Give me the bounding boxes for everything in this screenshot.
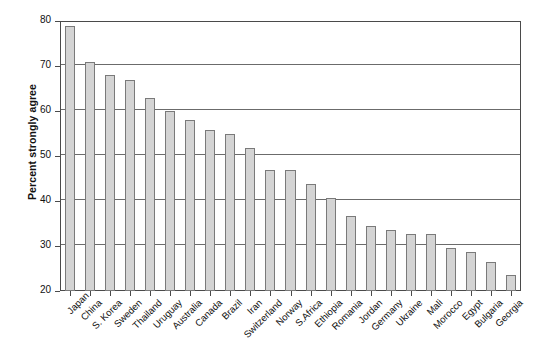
bar — [65, 26, 75, 292]
bar — [466, 252, 476, 291]
x-tick-mark — [291, 291, 292, 296]
x-tick-mark — [351, 291, 352, 296]
bar — [85, 62, 95, 292]
bar — [506, 275, 516, 291]
x-tick-mark — [270, 291, 271, 296]
y-axis-ticks: 20304050607080 — [0, 21, 60, 291]
y-tick-label: 30 — [40, 239, 51, 250]
bar — [105, 75, 115, 291]
bar — [306, 184, 316, 291]
y-tick-label: 20 — [40, 284, 51, 295]
x-tick-mark — [90, 291, 91, 296]
x-tick-mark — [431, 291, 432, 296]
bar — [346, 216, 356, 291]
bar — [285, 170, 295, 291]
x-tick-mark — [210, 291, 211, 296]
x-tick-mark — [150, 291, 151, 296]
bar — [205, 130, 215, 291]
bar-chart: Percent strongly agree 20304050607080 Ja… — [0, 0, 537, 355]
bar — [486, 262, 496, 291]
bar — [426, 234, 436, 291]
x-tick-mark — [331, 291, 332, 296]
y-tick-label: 80 — [40, 14, 51, 25]
x-tick-mark — [411, 291, 412, 296]
x-tick-mark — [511, 291, 512, 296]
bar — [225, 134, 235, 292]
y-tick-label: 50 — [40, 149, 51, 160]
bar — [366, 226, 376, 291]
x-tick-mark — [230, 291, 231, 296]
bar — [145, 98, 155, 291]
y-tick-label: 60 — [40, 104, 51, 115]
bar — [245, 148, 255, 291]
x-tick-mark — [250, 291, 251, 296]
x-tick-mark — [130, 291, 131, 296]
x-tick-mark — [170, 291, 171, 296]
bar — [446, 248, 456, 291]
bar — [165, 111, 175, 291]
y-tick-label: 70 — [40, 59, 51, 70]
x-tick-mark — [371, 291, 372, 296]
x-tick-mark — [311, 291, 312, 296]
x-axis-labels: JapanChinaS. KoreaSwedenThailandUruguayA… — [60, 297, 521, 355]
bar — [386, 230, 396, 291]
y-tick-label: 40 — [40, 194, 51, 205]
x-tick-mark — [70, 291, 71, 296]
x-tick-mark — [451, 291, 452, 296]
bar — [125, 80, 135, 292]
bar — [185, 120, 195, 291]
bar — [265, 170, 275, 291]
x-tick-mark — [110, 291, 111, 296]
bar — [326, 198, 336, 291]
bar — [406, 234, 416, 291]
x-tick-mark — [190, 291, 191, 296]
x-tick-mark — [491, 291, 492, 296]
bar-series — [60, 21, 521, 291]
x-tick-mark — [471, 291, 472, 296]
x-tick-mark — [391, 291, 392, 296]
